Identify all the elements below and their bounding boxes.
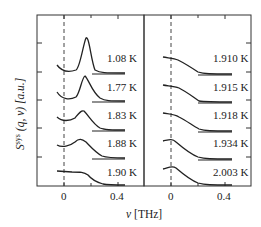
temp-label: 1.88 K [107,137,137,149]
chart-figure: 1.08 K 1.77 K 1.83 K 1.88 K 1.90 K 1.910… [0,0,261,227]
x-axis-label: ν[THz] [126,208,162,220]
x-tick-label: 0.4 [110,190,124,202]
temp-label: 1.918 K [213,109,249,121]
temp-label: 2.003 K [213,166,249,178]
x-tick-label: 0.4 [217,190,231,202]
temp-label: 1.77 K [107,81,137,93]
temp-label: 1.83 K [107,109,137,121]
x-tick-label: 0 [61,190,67,202]
y-axis-label: Ssys (q, ν) [a.u.] [13,78,27,150]
temp-label: 1.934 K [213,137,249,149]
temp-label: 1.90 K [107,166,137,178]
left-panel-frame [37,15,144,186]
temp-label: 1.915 K [213,81,249,93]
x-tick-label: 0 [168,190,174,202]
temp-label: 1.910 K [213,52,249,64]
temp-label: 1.08 K [107,52,137,64]
